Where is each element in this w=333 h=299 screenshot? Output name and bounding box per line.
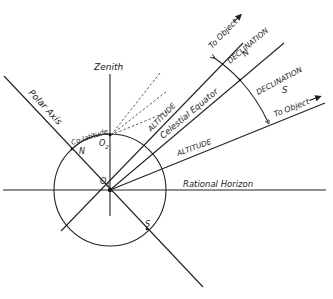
to-object-lower: To Object (272, 93, 322, 119)
altitude-lower-label: ALTITUDE (175, 137, 213, 158)
celestial-diagram: Zenith Polar Axis Co-latitude N O2 O1 S … (0, 0, 333, 299)
o1-subscript: 1 (106, 182, 110, 188)
rational-horizon-label: Rational Horizon (183, 179, 253, 189)
north-label: N (79, 147, 85, 156)
to-object-lower-arrow (309, 96, 320, 100)
to-object-lower-label: To Object (272, 97, 311, 119)
zenith-label: Zenith (93, 62, 123, 72)
n-point (71, 148, 74, 151)
o1-label: O1 (100, 177, 110, 188)
equator-arc-point (239, 79, 242, 82)
polar-axis-label: Polar Axis (27, 88, 65, 127)
o1-point (108, 188, 112, 192)
o2-subscript: 2 (105, 144, 109, 150)
to-object-upper-label: To Object (207, 17, 240, 51)
to-object-upper-arrow (233, 15, 241, 23)
o2-label: O2 (99, 139, 109, 150)
to-object-upper: To Object (207, 12, 245, 51)
declination-s-block: DECLINATION S (255, 65, 304, 97)
celestial-equator-line (110, 43, 284, 190)
declination-s-title: DECLINATION (255, 65, 304, 97)
south-label: S (145, 220, 150, 229)
declination-s-letter: S (282, 85, 288, 95)
